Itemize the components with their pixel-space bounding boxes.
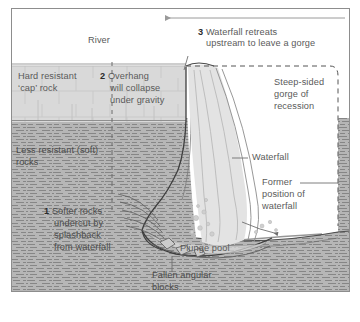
step-1-number: 1 <box>44 206 49 216</box>
step-3-line1: Waterfall retreats <box>206 27 277 37</box>
step-3-number: 3 <box>198 27 203 37</box>
label-gorge-line3: recession <box>274 101 314 112</box>
waterfall-gorge-diagram: River 3 Waterfall retreats upstream to l… <box>0 0 360 322</box>
label-former-position-line2: position of <box>262 189 305 200</box>
step-1-line3: splashback <box>54 230 101 241</box>
label-plunge-pool: Plunge pool <box>180 243 230 254</box>
step-2-line2: will collapse <box>110 83 160 94</box>
step-2-line1: Overhang <box>108 71 149 81</box>
step-1-line2: undercut by <box>54 218 103 229</box>
label-gorge-line2: gorge of <box>274 89 309 100</box>
step-2-number: 2 <box>100 71 105 81</box>
label-waterfall: Waterfall <box>252 152 289 163</box>
label-former-position-line3: waterfall <box>262 201 297 212</box>
label-gorge-line1: Steep-sided <box>274 77 324 88</box>
step-3-line2: upstream to leave a gorge <box>206 38 315 49</box>
label-hard-cap-line1: Hard resistant <box>18 71 77 82</box>
label-less-resistant-line2: rocks <box>16 157 38 168</box>
step-1-line1: Softer rocks <box>52 206 102 216</box>
label-fallen-blocks-line2: blocks <box>152 282 179 293</box>
label-former-position-line1: Former <box>262 177 292 188</box>
label-step-2: 2 Overhang <box>100 71 149 82</box>
label-step-3: 3 Waterfall retreats <box>198 27 277 38</box>
label-fallen-blocks-line1: Fallen angular <box>152 270 212 281</box>
label-hard-cap-line2: ‘cap’ rock <box>18 83 57 94</box>
step-1-line4: from waterfall <box>54 242 111 253</box>
label-less-resistant-line1: Less resistant (soft) <box>16 145 98 156</box>
label-step-1: 1 Softer rocks <box>44 206 102 217</box>
step-2-line3: under gravity <box>110 95 164 106</box>
label-river: River <box>88 35 110 46</box>
